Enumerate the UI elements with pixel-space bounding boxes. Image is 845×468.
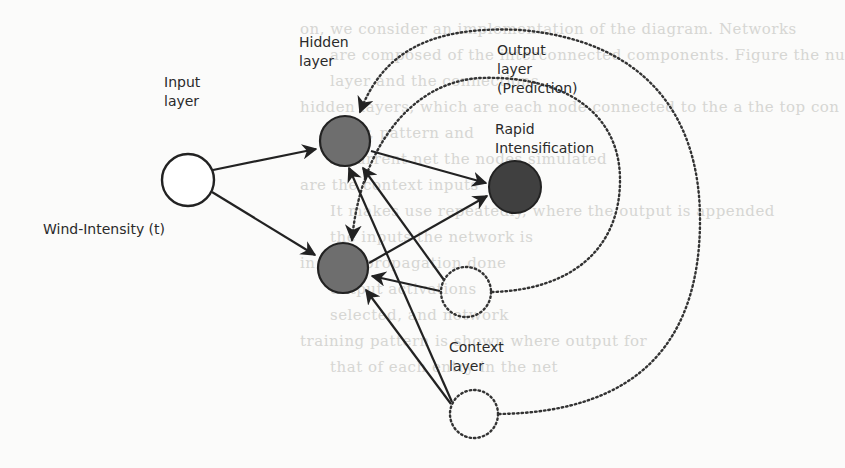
input-node <box>162 154 214 206</box>
edge-input-hidden1 <box>213 149 316 170</box>
input-layer-label: Input layer <box>164 73 200 111</box>
hidden-node-1 <box>320 116 370 166</box>
output-layer-label: Output layer (Prediction) <box>497 41 577 98</box>
recurrent-arc-inner <box>352 78 620 292</box>
hidden-node-2 <box>318 243 368 293</box>
nodes <box>162 116 541 438</box>
output-node <box>489 161 541 213</box>
edge-context1-hidden2 <box>372 276 440 291</box>
hidden-layer-label: Hidden layer <box>299 33 349 71</box>
input-node-label: Wind-Intensity (t) <box>43 220 165 239</box>
output-node-label: Rapid Intensification <box>495 120 594 158</box>
context-layer-label: Context layer <box>449 338 504 376</box>
edge-context1-hidden1 <box>363 168 444 280</box>
edge-context2-hidden2 <box>366 290 451 404</box>
edge-context2-hidden1 <box>349 168 452 402</box>
context-node-2 <box>450 390 498 438</box>
edge-input-hidden2 <box>212 192 315 255</box>
edge-hidden1-output <box>371 151 486 183</box>
context-node-1 <box>441 267 491 317</box>
